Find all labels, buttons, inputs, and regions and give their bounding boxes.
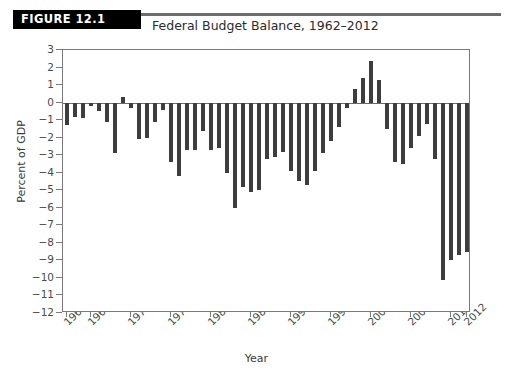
- bar-2002: [385, 103, 390, 129]
- bar-2007: [425, 103, 430, 124]
- bar-2004: [401, 103, 406, 164]
- bar-1967: [105, 103, 110, 122]
- bar-1999: [361, 78, 366, 103]
- y-tick-label: −5: [0, 184, 54, 194]
- bar-1979: [201, 103, 206, 131]
- bar-1994: [321, 103, 326, 154]
- bar-1969: [121, 97, 126, 102]
- y-tick-label: −2: [0, 132, 54, 142]
- y-tick-label: 0: [0, 97, 54, 107]
- bar-1995: [329, 103, 334, 142]
- y-tick-label: −6: [0, 202, 54, 212]
- bar-1977: [185, 103, 190, 150]
- y-tick-label: −10: [0, 272, 54, 282]
- bar-2010: [449, 103, 454, 261]
- bar-1985: [249, 103, 254, 192]
- bar-1973: [153, 103, 158, 122]
- bar-1984: [241, 103, 246, 187]
- bar-1976: [177, 103, 182, 177]
- bar-2008: [433, 103, 438, 159]
- bar-1965: [89, 103, 94, 107]
- bar-1982: [225, 103, 230, 173]
- plot-area: [62, 49, 470, 312]
- bar-1993: [313, 103, 318, 171]
- bar-2001: [377, 80, 382, 103]
- bar-1981: [217, 103, 222, 149]
- bar-2000: [369, 61, 374, 103]
- bar-1998: [353, 89, 358, 103]
- y-tick-label: −11: [0, 289, 54, 299]
- bar-1983: [233, 103, 238, 208]
- bar-1989: [281, 103, 286, 152]
- y-tick-label: −9: [0, 254, 54, 264]
- bar-1996: [337, 103, 342, 128]
- bar-1968: [113, 103, 118, 154]
- y-tick-label: 3: [0, 44, 54, 54]
- y-tick-label: 2: [0, 62, 54, 72]
- bar-1987: [265, 103, 270, 159]
- y-tick-label: 1: [0, 79, 54, 89]
- bar-1978: [193, 103, 198, 150]
- bar-2003: [393, 103, 398, 163]
- bar-1964: [81, 103, 86, 119]
- bars-container: [63, 50, 469, 311]
- bar-2006: [417, 103, 422, 136]
- bar-1963: [73, 103, 78, 117]
- y-tick-label: −1: [0, 114, 54, 124]
- bar-1974: [161, 103, 166, 110]
- bar-1970: [129, 103, 134, 108]
- bar-2009: [441, 103, 446, 280]
- y-tick-label: −4: [0, 167, 54, 177]
- bar-2011: [457, 103, 462, 256]
- y-tick-label: −8: [0, 237, 54, 247]
- y-tick-label: −7: [0, 219, 54, 229]
- bar-1980: [209, 103, 214, 150]
- bar-1966: [97, 103, 102, 112]
- bar-1988: [273, 103, 278, 157]
- bar-1971: [137, 103, 142, 140]
- bar-1975: [169, 103, 174, 163]
- bar-1986: [257, 103, 262, 191]
- bar-1997: [345, 103, 350, 108]
- bar-1972: [145, 103, 150, 138]
- y-tick-label: −12: [0, 307, 54, 317]
- x-axis-title: Year: [0, 352, 513, 365]
- bar-1992: [305, 103, 310, 185]
- y-tick: [56, 312, 62, 313]
- bar-2005: [409, 103, 414, 149]
- bar-2012: [465, 103, 470, 252]
- y-tick-label: −3: [0, 149, 54, 159]
- bar-1991: [297, 103, 302, 182]
- bar-1990: [289, 103, 294, 171]
- bar-chart: Percent of GDP 3210−1−2−3−4−5−6−7−8−9−10…: [0, 0, 513, 373]
- bar-1962: [65, 103, 70, 126]
